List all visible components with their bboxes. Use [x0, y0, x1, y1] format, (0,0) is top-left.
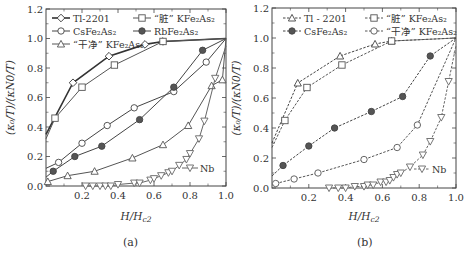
legend-entry: “干净” KFe₂As₂: [73, 39, 144, 50]
y-tick-label: 0.0: [253, 183, 269, 194]
y-axis-label: (κ₀/T)/(κN0/T): [4, 60, 16, 135]
legend-entry: “干净” KFe₂As₂: [386, 26, 457, 37]
chart-canvas: 0.00.20.40.60.81.01.20.20.40.60.81.0(κ₀/…: [0, 0, 466, 254]
x-tick-label: 1.0: [218, 190, 234, 201]
y-tick-label: 0.8: [253, 63, 269, 74]
legend-entry: Tl - 2201: [304, 13, 347, 24]
x-axis-label: H/Hc2: [120, 210, 152, 224]
x-tick-label: 0.6: [146, 190, 162, 201]
legend-entry: CsFe₂As₂: [304, 26, 347, 37]
y-tick-label: 1.2: [253, 3, 269, 14]
chart-panel-a: 0.00.20.40.60.81.01.20.20.40.60.81.0(κ₀/…: [4, 4, 234, 225]
legend-entry: Tl-2201: [73, 13, 110, 24]
chart-panel-b: 0.00.20.40.60.81.01.20.20.40.60.81.0(κ₀/…: [230, 3, 464, 225]
series-1: [46, 38, 226, 139]
x-tick-label: 0.6: [374, 192, 390, 203]
y-tick-label: 0.4: [253, 123, 269, 134]
legend-entry: RbFe₂As₂: [154, 26, 198, 37]
x-tick-label: 0.4: [110, 190, 126, 201]
series-2: [272, 38, 456, 176]
x-axis-label: H/Hc2: [348, 210, 380, 224]
y-tick-label: 0.0: [27, 181, 43, 192]
y-tick-label: 1.0: [27, 33, 43, 44]
x-tick-label: 0.4: [338, 192, 354, 203]
legend: Tl - 2201“脏” KFe₂As₂CsFe₂As₂“干净” KFe₂As₂: [283, 13, 457, 37]
y-tick-label: 0.2: [253, 153, 269, 164]
legend: Tl-2201“脏” KFe₂As₂CsFe₂As₂RbFe₂As₂“干净” K…: [52, 13, 215, 50]
nb-annotation: Nb: [432, 164, 446, 175]
y-axis-label: (κ₀/T)/(κN0/T): [230, 61, 242, 136]
legend-entry: CsFe₂As₂: [73, 26, 116, 37]
y-tick-label: 0.6: [253, 93, 269, 104]
y-tick-label: 0.2: [27, 151, 43, 162]
y-tick-label: 0.8: [27, 63, 43, 74]
series-3: [272, 38, 456, 187]
figure: 0.00.20.40.60.81.01.20.20.40.60.81.0(κ₀/…: [0, 0, 466, 254]
legend-entry: “脏” KFe₂As₂: [386, 13, 447, 24]
y-tick-label: 1.0: [253, 33, 269, 44]
y-tick-label: 1.2: [27, 4, 43, 15]
x-tick-label: 0.2: [301, 192, 317, 203]
y-tick-label: 0.6: [27, 92, 43, 103]
y-tick-label: 0.4: [27, 122, 43, 133]
x-tick-label: 0.8: [182, 190, 198, 201]
legend-entry: “脏” KFe₂As₂: [154, 13, 215, 24]
series-2: [46, 39, 226, 169]
nb-annotation: Nb: [200, 163, 214, 174]
caption-b: (b): [357, 236, 373, 249]
series-4: [44, 39, 226, 185]
x-tick-label: 0.2: [74, 190, 90, 201]
x-tick-label: 1.0: [448, 192, 464, 203]
x-tick-label: 0.8: [411, 192, 427, 203]
caption-a: (a): [123, 236, 138, 249]
